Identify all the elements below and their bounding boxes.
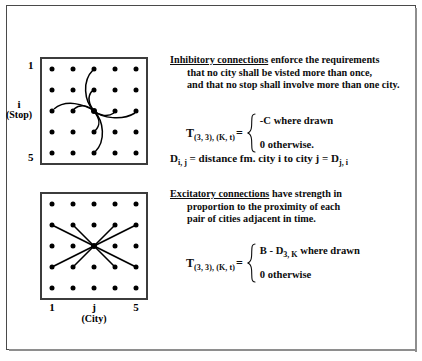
excitatory-case-1-subscript: 3, K [283,250,297,259]
inhibitory-equation-brace [246,113,257,153]
node-4-4 [113,265,118,270]
node-5-3 [92,151,97,156]
node-3-1 [50,109,55,114]
excitatory-case-2: 0 otherwise [260,269,360,281]
node-1-4 [113,67,118,72]
node-3-2 [71,244,76,249]
inhibitory-axis-y-top: 1 [28,60,34,72]
excitatory-equation-equals: = [236,256,243,271]
distance-equation-rhs-subscript: j, i [339,158,348,167]
excitatory-description: Excitatory connections have strength in … [170,188,342,226]
ray-to-4-5 [94,246,136,267]
node-3-3-source [91,108,97,114]
node-5-4 [113,286,118,291]
excitatory-axis-x-center: j [85,302,103,314]
ray-to-2-5 [94,225,136,246]
inhibitory-axis-y-sublabel: (Stop) [0,110,38,121]
node-1-3 [92,202,97,207]
node-5-1 [50,286,55,291]
node-4-2 [71,130,76,135]
inhibitory-weight-equation: T(3, 3), (K, t) = -C where drawn 0 other… [186,113,333,153]
ray-to-2-4 [94,225,115,246]
node-4-3 [92,265,97,270]
node-3-2 [71,109,76,114]
inhibitory-equation-lhs: T(3, 3), (K, t) [186,126,235,141]
inhibitory-equation-equals: = [236,126,243,141]
node-3-4 [113,244,118,249]
inhibitory-description-line2: that no city shall be visted more than o… [170,67,400,80]
ray-to-2-2 [73,225,94,246]
inhibitory-axis-y-bottom: 5 [28,152,34,164]
node-1-4 [113,202,118,207]
node-1-5 [134,67,139,72]
inhibitory-description-lead: Inhibitory connections [170,54,268,65]
distance-equation: Di, j = distance fm. city i to city j = … [170,152,348,164]
node-5-5 [134,151,139,156]
node-4-1 [50,265,55,270]
node-4-4 [113,130,118,135]
node-2-2 [71,223,76,228]
node-1-2 [71,202,76,207]
excitatory-description-lead: Excitatory connections [170,188,269,199]
node-3-3-source [91,243,97,249]
node-3-1 [50,244,55,249]
node-5-2 [71,151,76,156]
ray-to-4-4 [94,246,115,267]
excitatory-case-1: B - D3, K where drawn [260,245,360,258]
inhibitory-case-1: -C where drawn [260,115,333,127]
distance-equation-lhs-subscript: i, j [178,158,187,167]
distance-equation-rhs-symbol: D [331,152,339,164]
node-1-3 [92,67,97,72]
node-2-5 [134,223,139,228]
excitatory-axis-x-right: 5 [127,302,145,314]
figure-frame-shadow-right [415,8,417,352]
inhibitory-grid-panel [40,57,148,165]
node-5-2 [71,286,76,291]
node-1-1 [50,202,55,207]
excitatory-equation-lhs: T(3, 3), (K, t) [186,256,235,271]
excitatory-connections-diagram [40,192,148,300]
node-4-5 [134,265,139,270]
node-1-2 [71,67,76,72]
node-5-1 [50,151,55,156]
inhibitory-equation-symbol: T [186,126,194,141]
ray-to-4-2 [73,246,94,267]
node-2-4 [113,223,118,228]
inhibitory-equation-cases: -C where drawn 0 otherwise. [260,115,333,151]
node-4-3 [92,130,97,135]
node-4-5 [134,130,139,135]
excitatory-weight-equation: T(3, 3), (K, t) = B - D3, K where drawn … [186,243,360,283]
inhibitory-description: Inhibitory connections enforce the requi… [170,54,400,92]
node-2-5 [134,88,139,93]
inhibitory-case-2: 0 otherwise. [260,139,333,151]
node-2-3 [92,223,97,228]
figure-frame-shadow-bottom [9,349,417,351]
excitatory-equation-cases: B - D3, K where drawn 0 otherwise [260,245,360,281]
inhibitory-description-line1-rest: enforce the requirements [268,54,379,65]
excitatory-description-line3: pair of cities adjacent in time. [170,213,342,226]
excitatory-axis-x-left: 1 [43,302,61,314]
node-5-3 [92,286,97,291]
node-2-4 [113,88,118,93]
ray-to-4-1 [52,246,94,267]
node-1-1 [50,67,55,72]
excitatory-description-line2: proportion to the proximity of each [170,201,342,214]
node-4-1 [50,130,55,135]
excitatory-case-1-post: where drawn [298,245,360,256]
inhibitory-connections-diagram [40,57,148,165]
node-4-2 [71,265,76,270]
excitatory-equation-subscript: (3, 3), (K, t) [194,263,235,272]
node-3-5 [134,109,139,114]
figure-root: 1 5 i (Stop) Inhibitory connections enfo… [0,0,422,361]
inhibitory-description-line3: and that no stop shall involve more than… [170,79,400,92]
excitatory-case-1-pre: B - D [260,245,284,256]
node-2-1 [50,223,55,228]
excitatory-equation-brace [246,243,257,283]
node-1-5 [134,202,139,207]
node-5-4 [113,151,118,156]
curly-brace-icon [246,113,257,153]
excitatory-description-line1-rest: have strength in [269,188,342,199]
node-2-1 [50,88,55,93]
inhibitory-equation-subscript: (3, 3), (K, t) [194,133,235,142]
excitatory-grid-panel [40,192,148,300]
